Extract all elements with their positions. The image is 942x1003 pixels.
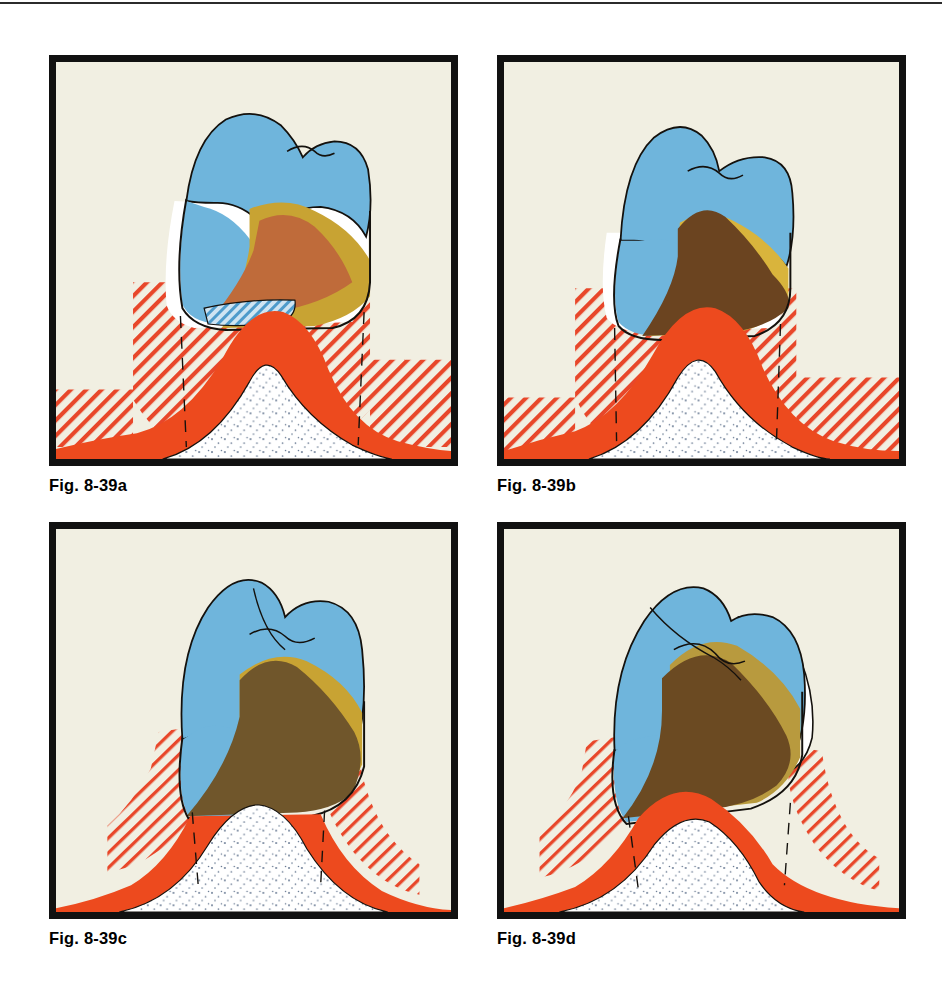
figure-frame-d [497, 522, 906, 919]
figure-frame-b [497, 55, 906, 466]
figure-frame-a [49, 55, 458, 466]
figure-frame-c [49, 522, 458, 919]
tooth-illustration-d [504, 529, 899, 912]
tooth-illustration-b [504, 62, 899, 459]
figure-panel-d[interactable] [497, 522, 906, 919]
figure-panel-a[interactable] [49, 55, 458, 466]
tooth-illustration-c [56, 529, 451, 912]
figure-caption-b: Fig. 8-39b [497, 476, 576, 495]
figure-caption-a: Fig. 8-39a [49, 476, 127, 495]
figure-panel-c[interactable] [49, 522, 458, 919]
tooth-illustration-a [56, 62, 451, 459]
figure-caption-d: Fig. 8-39d [497, 929, 576, 948]
figure-caption-c: Fig. 8-39c [49, 929, 127, 948]
figure-grid: Fig. 8-39a [0, 0, 942, 1003]
figure-panel-b[interactable] [497, 55, 906, 466]
